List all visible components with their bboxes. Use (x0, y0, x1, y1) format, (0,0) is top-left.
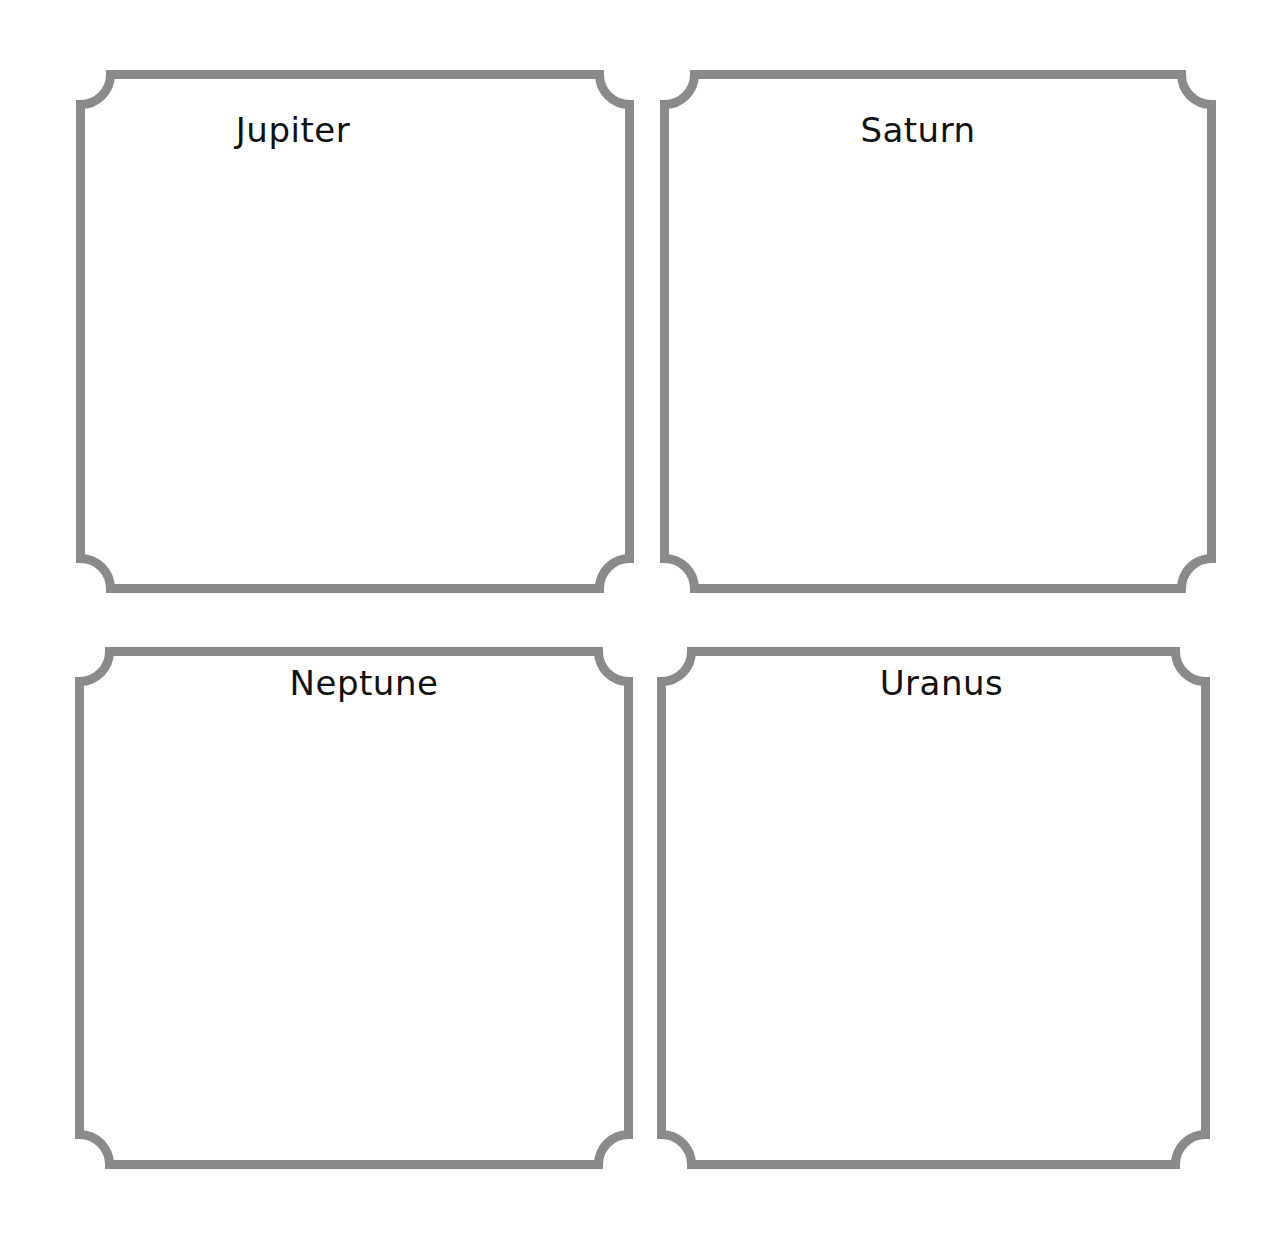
frame-title: Uranus (665, 663, 1218, 703)
frame-border (657, 647, 1210, 1169)
frame-border (75, 647, 633, 1169)
frame-title: Jupiter (14, 110, 572, 150)
frame-jupiter: Jupiter (76, 70, 634, 593)
frame-title: Saturn (640, 110, 1196, 150)
frame-neptune: Neptune (75, 647, 633, 1169)
frame-saturn: Saturn (660, 70, 1216, 593)
frame-title: Neptune (85, 663, 643, 703)
frame-uranus: Uranus (657, 647, 1210, 1169)
